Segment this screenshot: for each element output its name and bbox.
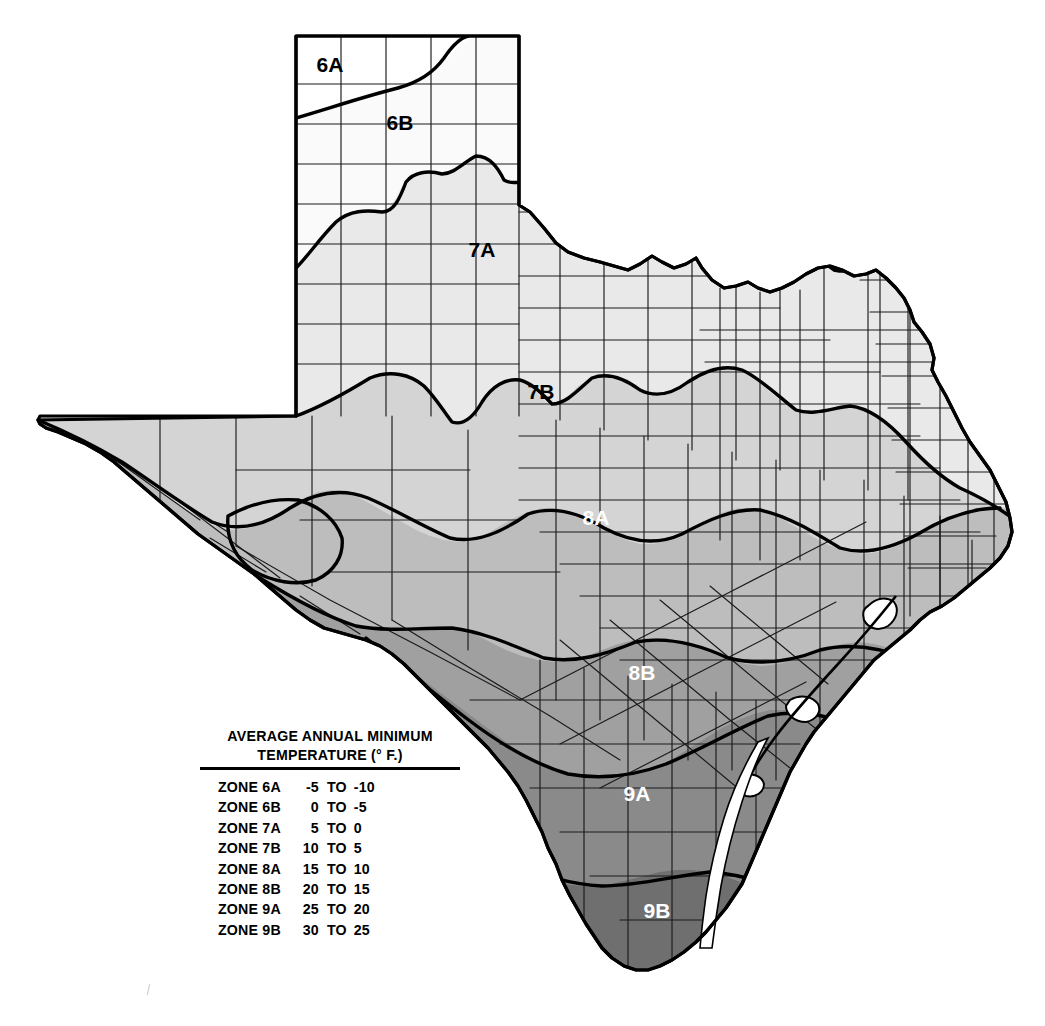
zone-label-7b: 7B (527, 380, 554, 403)
legend-zone-name: ZONE 6A (218, 779, 293, 799)
legend-temp-high: 15 (293, 861, 327, 881)
legend-temp-to: TO (327, 922, 354, 942)
legend-temp-high: 5 (293, 820, 327, 840)
legend-temp-low: -5 (354, 799, 375, 819)
legend-table-body: ZONE 6A -5 TO -10 ZONE 6B 0 TO -5 ZONE 7… (218, 779, 375, 942)
legend-temp-to: TO (327, 779, 354, 799)
legend-temp-low: 10 (354, 861, 375, 881)
legend-temp-to: TO (327, 799, 354, 819)
legend-row: ZONE 6B 0 TO -5 (218, 799, 375, 819)
legend-row: ZONE 8A 15 TO 10 (218, 861, 375, 881)
legend-row: ZONE 6A -5 TO -10 (218, 779, 375, 799)
texas-map-graphic: 6A 6B 7A 7B 8A 8B 9A 9B (0, 0, 1045, 1026)
legend-row: ZONE 8B 20 TO 15 (218, 881, 375, 901)
zone-fill-9b (0, 856, 1045, 1026)
zone-label-6b: 6B (386, 111, 413, 134)
zone-label-9a: 9A (623, 782, 650, 805)
legend-temp-high: 25 (293, 901, 327, 921)
legend-temp-to: TO (327, 881, 354, 901)
legend-temp-low: 5 (354, 840, 375, 860)
legend-row: ZONE 9B 30 TO 25 (218, 922, 375, 942)
legend-temp-low: 15 (354, 881, 375, 901)
legend-zone-name: ZONE 9B (218, 922, 293, 942)
legend-temp-high: 10 (293, 840, 327, 860)
legend-zone-name: ZONE 8B (218, 881, 293, 901)
legend-title: AVERAGE ANNUAL MINIMUM TEMPERATURE (° F.… (196, 727, 464, 764)
legend-temp-to: TO (327, 820, 354, 840)
legend-temp-low: 20 (354, 901, 375, 921)
legend-zone-name: ZONE 6B (218, 799, 293, 819)
legend-temp-high: 0 (293, 799, 327, 819)
legend-table: ZONE 6A -5 TO -10 ZONE 6B 0 TO -5 ZONE 7… (218, 779, 375, 942)
legend-temp-high: -5 (293, 779, 327, 799)
legend-temp-low: 0 (354, 820, 375, 840)
legend-zone-name: ZONE 7A (218, 820, 293, 840)
map-legend: AVERAGE ANNUAL MINIMUM TEMPERATURE (° F.… (196, 727, 464, 942)
legend-temp-low: 25 (354, 922, 375, 942)
legend-row: ZONE 9A 25 TO 20 (218, 901, 375, 921)
legend-temp-to: TO (327, 901, 354, 921)
legend-temp-low: -10 (354, 779, 375, 799)
zone-label-9b: 9B (643, 899, 670, 922)
zone-label-7a: 7A (468, 238, 495, 261)
zone-fill-layers (0, 0, 1045, 1026)
legend-zone-name: ZONE 8A (218, 861, 293, 881)
legend-row: ZONE 7A 5 TO 0 (218, 820, 375, 840)
legend-zone-name: ZONE 9A (218, 901, 293, 921)
zone-label-6a: 6A (316, 53, 343, 76)
legend-divider (200, 767, 460, 770)
legend-temp-to: TO (327, 861, 354, 881)
legend-zone-name: ZONE 7B (218, 840, 293, 860)
zone-label-8b: 8B (628, 661, 655, 684)
zone-label-8a: 8A (582, 506, 609, 529)
legend-title-line-2: TEMPERATURE (° F.) (196, 746, 464, 765)
legend-temp-high: 20 (293, 881, 327, 901)
legend-temp-to: TO (327, 840, 354, 860)
hardiness-zone-map: 6A 6B 7A 7B 8A 8B 9A 9B AVERAGE ANNUAL M… (0, 0, 1045, 1026)
legend-title-line-1: AVERAGE ANNUAL MINIMUM (227, 728, 432, 744)
legend-row: ZONE 7B 10 TO 5 (218, 840, 375, 860)
legend-temp-high: 30 (293, 922, 327, 942)
